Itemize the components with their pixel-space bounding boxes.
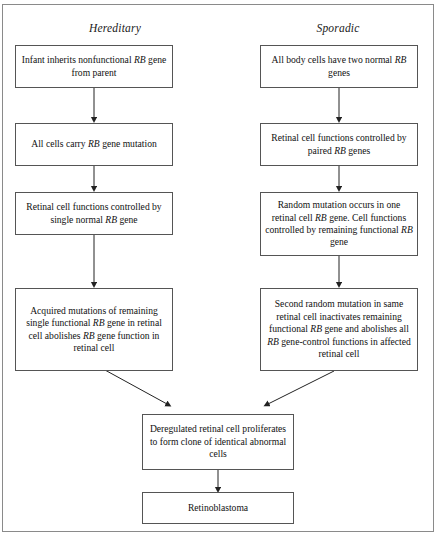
node-h3-text: Retinal cell functions controlled by sin… <box>20 201 168 226</box>
node-s3-text: Random mutation occurs in one retinal ce… <box>265 199 413 249</box>
node-s4[interactable]: Second random mutation in same retinal c… <box>260 288 418 371</box>
node-h2[interactable]: All cells carry RB gene mutation <box>15 123 173 166</box>
node-s1-text: All body cells have two normal RB genes <box>265 54 413 79</box>
node-s1[interactable]: All body cells have two normal RB genes <box>260 45 418 88</box>
node-h4-text: Acquired mutations of remaining single f… <box>20 305 168 355</box>
node-s4-text: Second random mutation in same retinal c… <box>265 298 413 360</box>
node-c1[interactable]: Deregulated retinal cell proliferates to… <box>142 414 294 470</box>
node-s2-text: Retinal cell functions controlled by pai… <box>265 132 413 157</box>
node-h1[interactable]: Infant inherits nonfunctional RB gene fr… <box>15 45 173 88</box>
node-s2[interactable]: Retinal cell functions controlled by pai… <box>260 123 418 166</box>
column-heading-sporadic: Sporadic <box>258 22 418 34</box>
node-h4[interactable]: Acquired mutations of remaining single f… <box>15 288 173 371</box>
node-c2[interactable]: Retinoblastoma <box>142 492 294 524</box>
node-h3[interactable]: Retinal cell functions controlled by sin… <box>15 192 173 235</box>
node-c1-text: Deregulated retinal cell proliferates to… <box>147 423 289 460</box>
figure-canvas: Hereditary Sporadic Infant inherits nonf… <box>0 0 446 542</box>
node-h2-text: All cells carry RB gene mutation <box>20 138 168 150</box>
node-c2-text: Retinoblastoma <box>147 502 289 514</box>
node-s3[interactable]: Random mutation occurs in one retinal ce… <box>260 192 418 256</box>
column-heading-hereditary: Hereditary <box>35 22 195 34</box>
node-h1-text: Infant inherits nonfunctional RB gene fr… <box>20 54 168 79</box>
